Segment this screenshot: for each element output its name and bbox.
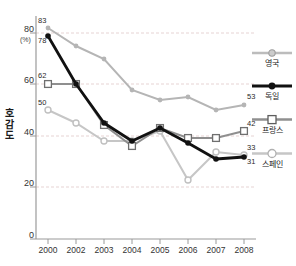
- chart-legend: 영국 독일 프랑스 스페인: [248, 48, 296, 182]
- annotation-start-spain: 50: [38, 98, 46, 107]
- legend-item-france[interactable]: 프랑스: [248, 114, 296, 135]
- line-marker-icon: [250, 114, 294, 125]
- gridlines: [36, 33, 256, 187]
- line-marker-icon: [250, 48, 294, 58]
- legend-label-uk: 영국: [248, 59, 296, 68]
- series-line-germany: [45, 33, 247, 162]
- series-line-uk: [46, 26, 247, 113]
- annotation-start-germany: 78: [38, 36, 46, 45]
- legend-item-spain[interactable]: 스페인: [248, 148, 296, 169]
- legend-item-uk[interactable]: 영국: [248, 48, 296, 68]
- annotation-start-uk: 83: [38, 16, 46, 25]
- legend-item-germany[interactable]: 독일: [248, 81, 296, 101]
- series-line-spain: [45, 107, 247, 183]
- legend-label-france: 프랑스: [248, 126, 296, 135]
- line-marker-icon: [250, 148, 294, 159]
- legend-label-germany: 독일: [248, 92, 296, 101]
- axis-lines: [30, 16, 256, 244]
- line-marker-icon: [250, 81, 294, 91]
- chart-figure: 호 감 도 0 20 40 60 80 (%) 2000 2002 2003 2…: [0, 0, 296, 266]
- series-line-france: [45, 81, 248, 150]
- annotation-start-france: 62: [38, 71, 46, 80]
- legend-label-spain: 스페인: [248, 160, 296, 169]
